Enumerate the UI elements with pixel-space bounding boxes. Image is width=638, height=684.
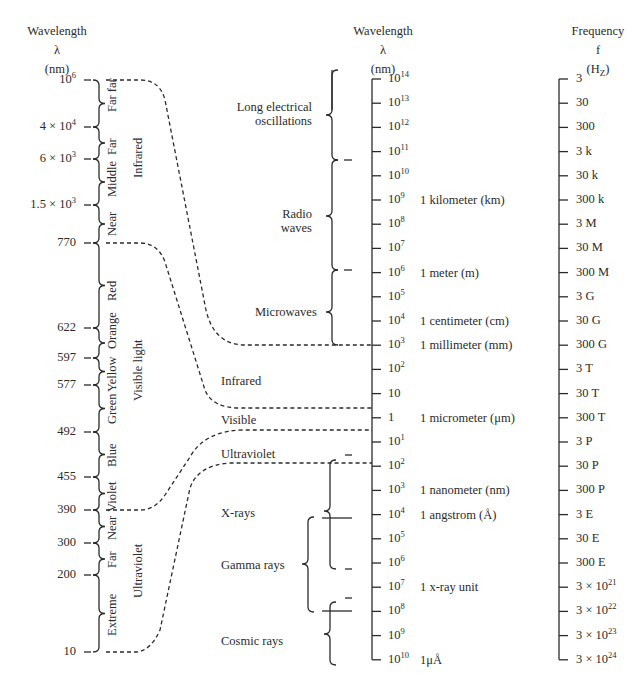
frequency-tick-label: 3 E bbox=[576, 507, 593, 521]
region-infrared: Infrared bbox=[221, 374, 261, 388]
left-tick-label: 1.5 × 103 bbox=[0, 197, 76, 212]
frequency-tick-label: 30 E bbox=[576, 531, 599, 545]
left-header-title: Wavelength bbox=[10, 22, 104, 41]
left-tick-label: 390 bbox=[0, 502, 76, 516]
left-tick-label: 10 bbox=[0, 644, 76, 658]
band-red: Red bbox=[105, 281, 120, 301]
frequency-tick-label: 300 G bbox=[576, 337, 607, 351]
middle-tick-label: 1014 bbox=[388, 71, 409, 86]
middle-header-symbol: λ bbox=[336, 41, 430, 60]
band-far-ir: Far bbox=[105, 138, 120, 155]
band-yellow: Yellow bbox=[105, 356, 120, 392]
region-radio-waves: Radio waves bbox=[240, 207, 312, 235]
frequency-tick-label: 300 M bbox=[576, 265, 609, 279]
unit-label: 1 x-ray unit bbox=[420, 580, 478, 594]
frequency-tick-label: 300 T bbox=[576, 410, 605, 424]
frequency-tick-label: 30 M bbox=[576, 240, 603, 254]
unit-label: 1 centimeter (cm) bbox=[420, 314, 509, 328]
middle-tick-label: 108 bbox=[388, 216, 405, 231]
middle-tick-label: 103 bbox=[388, 337, 405, 352]
band-extreme-uv: Extreme bbox=[105, 594, 120, 636]
middle-tick-label: 107 bbox=[388, 240, 405, 255]
right-header-symbol: f bbox=[558, 41, 638, 60]
middle-tick-label: 1011 bbox=[388, 144, 409, 159]
left-tick-label: 597 bbox=[0, 350, 76, 364]
band-middle-ir: Middle bbox=[105, 161, 120, 197]
unit-label: 1 meter (m) bbox=[420, 266, 479, 280]
frequency-tick-label: 300 E bbox=[576, 555, 606, 569]
middle-tick-label: 105 bbox=[388, 531, 405, 546]
region-cosmic-rays: Cosmic rays bbox=[221, 634, 283, 648]
frequency-tick-label: 3 × 1022 bbox=[576, 603, 617, 618]
middle-tick-label: 1013 bbox=[388, 95, 409, 110]
middle-tick-label: 10 bbox=[388, 386, 401, 400]
right-header-unit: (HZ) bbox=[558, 60, 638, 80]
middle-tick-label: 101 bbox=[388, 434, 405, 449]
frequency-tick-label: 3 k bbox=[576, 144, 592, 158]
left-header-symbol: λ bbox=[10, 41, 104, 60]
frequency-tick-label: 3 × 1021 bbox=[576, 579, 617, 594]
frequency-tick-label: 3 M bbox=[576, 216, 597, 230]
left-band-brace bbox=[93, 477, 105, 510]
left-tick-label: 455 bbox=[0, 469, 76, 483]
middle-tick-label: 106 bbox=[388, 555, 405, 570]
frequency-tick-label: 3 T bbox=[576, 361, 593, 375]
unit-label: 1 kilometer (km) bbox=[420, 193, 505, 207]
left-band-brace bbox=[93, 243, 105, 328]
left-tick-label: 106 bbox=[0, 72, 76, 87]
middle-tick-label: 108 bbox=[388, 603, 405, 618]
middle-tick-label: 109 bbox=[388, 628, 405, 643]
brace-radio bbox=[326, 160, 338, 270]
region-gamma-rays: Gamma rays bbox=[221, 558, 285, 572]
diagram-lines bbox=[0, 0, 638, 684]
frequency-tick-label: 3 × 1024 bbox=[576, 652, 617, 667]
unit-label: 1 millimeter (mm) bbox=[420, 338, 512, 352]
middle-tick-label: 1010 bbox=[388, 168, 409, 183]
left-tick-label: 577 bbox=[0, 377, 76, 391]
left-band-brace bbox=[93, 543, 105, 575]
left-band-brace bbox=[93, 127, 105, 159]
middle-tick-label: 1012 bbox=[388, 119, 409, 134]
left-tick-label: 492 bbox=[0, 424, 76, 438]
middle-tick-label: 106 bbox=[388, 265, 405, 280]
frequency-tick-label: 30 k bbox=[576, 168, 598, 182]
left-tick-label: 622 bbox=[0, 320, 76, 334]
middle-tick-label: 1010 bbox=[388, 652, 409, 667]
left-band-brace bbox=[93, 510, 105, 543]
brace-long-electrical bbox=[326, 70, 338, 160]
left-tick-label: 770 bbox=[0, 235, 76, 249]
left-band-brace bbox=[93, 575, 105, 652]
frequency-tick-label: 30 G bbox=[576, 313, 601, 327]
middle-tick-label: 104 bbox=[388, 507, 405, 522]
right-header-title: Frequency bbox=[558, 22, 638, 41]
band-far-far: Far far bbox=[105, 78, 120, 112]
left-band-brace bbox=[93, 328, 105, 358]
frequency-tick-label: 3 P bbox=[576, 434, 592, 448]
frequency-tick-label: 30 bbox=[576, 95, 589, 109]
unit-label: 1 angstrom (Å) bbox=[420, 508, 496, 522]
band-near-ir: Near bbox=[105, 212, 120, 236]
frequency-tick-label: 300 bbox=[576, 119, 595, 133]
left-band-brace bbox=[93, 205, 105, 243]
left-tick-label: 6 × 103 bbox=[0, 151, 76, 166]
left-band-brace bbox=[93, 432, 105, 477]
middle-header-title: Wavelength bbox=[336, 22, 430, 41]
brace-xrays bbox=[324, 460, 336, 569]
brace-gamma bbox=[302, 517, 314, 612]
frequency-tick-label: 3 bbox=[576, 71, 582, 85]
brace-microwaves bbox=[326, 270, 338, 345]
middle-tick-label: 107 bbox=[388, 579, 405, 594]
frequency-tick-label: 300 k bbox=[576, 192, 604, 206]
group-ultraviolet: Ultraviolet bbox=[131, 544, 146, 598]
left-band-brace bbox=[93, 80, 105, 127]
left-tick-label: 300 bbox=[0, 535, 76, 549]
region-ultraviolet: Ultraviolet bbox=[221, 447, 275, 461]
middle-tick-label: 103 bbox=[388, 482, 405, 497]
unit-label: 1 micrometer (μm) bbox=[420, 411, 515, 425]
band-orange: Orange bbox=[105, 312, 120, 349]
middle-axis-header: Wavelength λ (nm) bbox=[336, 22, 430, 79]
frequency-tick-label: 3 G bbox=[576, 289, 594, 303]
right-axis-header: Frequency f (HZ) bbox=[558, 22, 638, 80]
band-violet: Violet bbox=[105, 482, 120, 513]
region-microwaves: Microwaves bbox=[255, 305, 317, 319]
